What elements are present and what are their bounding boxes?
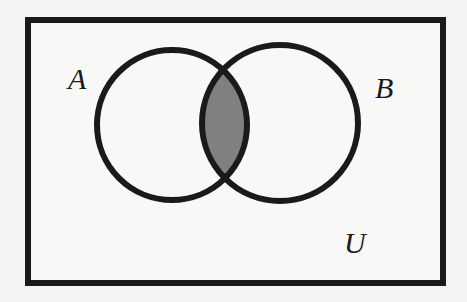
set-b-label: B — [375, 73, 393, 103]
venn-svg — [0, 0, 467, 302]
set-a-label: A — [68, 64, 86, 94]
universe-label: U — [344, 228, 366, 258]
venn-diagram: A B U — [0, 0, 467, 302]
